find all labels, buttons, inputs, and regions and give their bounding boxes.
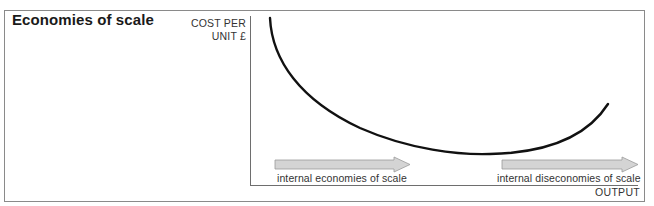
diseconomies-arrow-icon	[502, 157, 638, 172]
economies-of-scale-label: internal economies of scale	[277, 172, 407, 184]
average-cost-curve	[270, 18, 608, 154]
x-axis-label: OUTPUT	[595, 186, 640, 198]
diseconomies-of-scale-label: internal diseconomies of scale	[497, 172, 641, 184]
economies-arrow-icon	[275, 157, 410, 172]
